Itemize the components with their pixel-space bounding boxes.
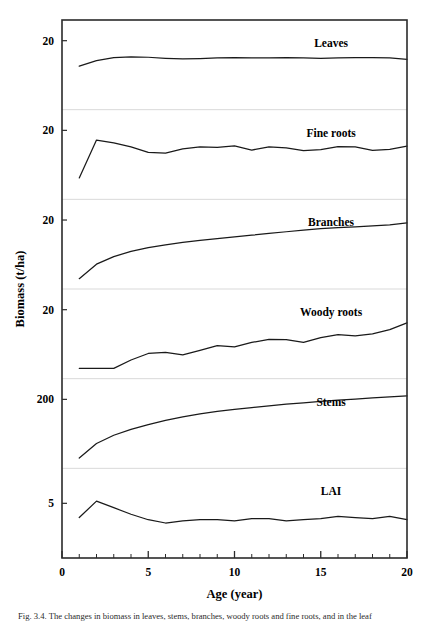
x-tick-label-10: 10 [229,566,241,578]
biomass-multipanel-chart: 20Leaves20Fine roots20Branches20Woody ro… [0,0,440,625]
panel-label-lai: LAI [321,485,342,497]
x-tick-label-5: 5 [145,566,151,578]
series-line-leaves [79,57,407,66]
y-tick-label-2: 20 [43,214,55,226]
series-line-branches [79,223,407,279]
series-line-lai [79,501,407,523]
panel-label-stems: Stems [316,396,346,408]
series-line-fine-roots [79,140,407,178]
panel-fine-roots: 20Fine roots [43,124,408,178]
panel-stems: 200Stems [37,393,407,458]
x-tick-label-15: 15 [315,566,327,578]
figure-caption: Fig. 3.4. The changes in biomass in leav… [18,611,430,625]
y-tick-label-3: 20 [43,304,55,316]
panel-label-woody-roots: Woody roots [300,306,363,319]
y-tick-label-1: 20 [43,124,55,136]
panel-branches: 20Branches [43,214,408,279]
y-tick-label-5: 5 [48,497,54,509]
series-line-woody-roots [79,323,407,369]
y-axis-title: Biomass (t/ha) [13,251,27,328]
figure-container: 20Leaves20Fine roots20Branches20Woody ro… [0,0,440,625]
panel-label-fine-roots: Fine roots [306,127,356,139]
x-axis-title: Age (year) [207,587,263,601]
x-tick-label-0: 0 [59,566,65,578]
panel-label-leaves: Leaves [314,37,348,49]
panel-lai: 5LAI [48,485,407,523]
panel-leaves: 20Leaves [43,35,408,67]
y-tick-label-4: 200 [37,393,55,405]
panel-label-branches: Branches [308,216,355,228]
x-tick-label-20: 20 [401,566,413,578]
panel-woody-roots: 20Woody roots [43,304,408,369]
y-tick-label-0: 20 [43,35,55,47]
series-line-stems [79,396,407,458]
